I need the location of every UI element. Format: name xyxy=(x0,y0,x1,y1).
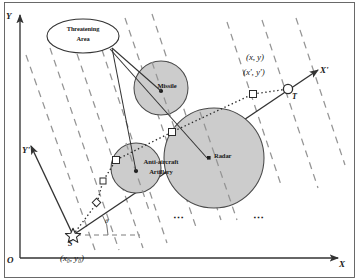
threat-label-missile: Missile xyxy=(146,83,188,90)
waypoint-marker xyxy=(169,129,176,136)
world-x-axis-label: X xyxy=(339,260,345,269)
start-point-label: S xyxy=(68,240,72,248)
threat-label-radar: Radar xyxy=(214,153,254,160)
waypoint-marker xyxy=(100,178,106,184)
threat-label-anti-aircraft-artillery-line2: Artillery xyxy=(128,169,194,176)
world-origin-label: O xyxy=(7,256,13,265)
theta-angle-label: θ xyxy=(105,218,108,225)
ellipsis-left: ⋯ xyxy=(173,213,185,225)
target-point-label: T xyxy=(292,93,297,101)
threat-avoidance-diagram xyxy=(0,0,359,280)
target-coordinates-local: (x', y') xyxy=(243,68,265,77)
threat-label-anti-aircraft-artillery-line1: Anti-aircraft xyxy=(128,159,194,166)
local-x-axis-label: X' xyxy=(320,66,328,75)
waypoint-marker xyxy=(113,157,120,164)
threatening-area-label-line1: Threatening xyxy=(55,26,111,33)
ellipsis-right: ⋯ xyxy=(253,213,265,225)
waypoint-marker xyxy=(250,91,257,98)
world-y-axis-label: Y xyxy=(6,12,11,21)
local-y-axis-label: Y' xyxy=(22,146,30,155)
threatening-area-label-line2: Area xyxy=(55,36,111,43)
start-point-coordinates: (x₀, y₀) xyxy=(60,254,84,263)
target-coordinates-world: (x, y) xyxy=(246,53,264,62)
